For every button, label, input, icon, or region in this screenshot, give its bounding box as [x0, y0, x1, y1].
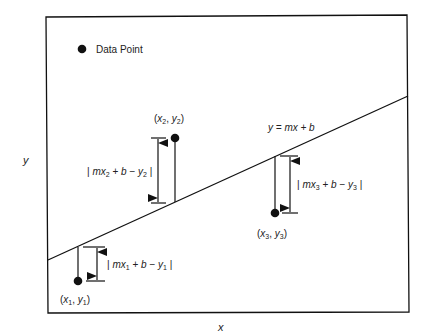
residual-label-2: | mx2 + b − y2 |: [87, 166, 152, 178]
data-point-legend-icon: [78, 45, 87, 54]
plot-frame: [46, 15, 409, 313]
legend: Data Point: [78, 44, 143, 55]
line-equation: y = mx + b: [267, 122, 315, 133]
data-point-2: (x2, y2) | mx2 + b − y2 |: [87, 113, 184, 203]
regression-diagram: Data Point y = mx + b (x2, y2) | mx2 + b…: [0, 0, 429, 336]
data-point-3: (x3, y3) | mx3 + b − y3 |: [257, 156, 362, 240]
point-3-label: (x3, y3): [257, 228, 287, 240]
data-point-1: (x1, y1) | mx1 + b − y1 |: [60, 247, 172, 306]
legend-label: Data Point: [96, 44, 143, 55]
point-1-label: (x1, y1): [60, 294, 90, 306]
regression-line: [48, 96, 408, 260]
point-2-label: (x2, y2): [154, 113, 184, 125]
x-axis-label: x: [217, 321, 224, 333]
y-axis-label: y: [22, 154, 30, 166]
residual-label-1: | mx1 + b − y1 |: [107, 259, 172, 271]
residual-label-3: | mx3 + b − y3 |: [297, 179, 362, 191]
